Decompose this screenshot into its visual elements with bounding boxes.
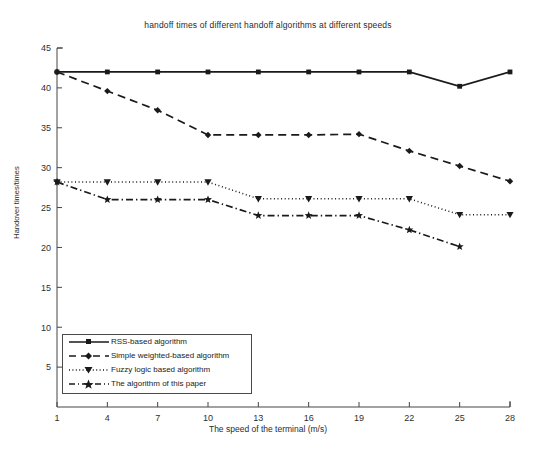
series-marker-3 (305, 211, 313, 219)
svg-text:16: 16 (304, 413, 314, 423)
svg-text:15: 15 (41, 283, 51, 293)
series-marker-0 (206, 70, 211, 75)
legend-item-1: Simple weighted-based algorithm (67, 349, 251, 363)
series-marker-3 (456, 242, 464, 250)
series-marker-1 (255, 132, 261, 138)
svg-text:13: 13 (253, 413, 263, 423)
svg-text:1: 1 (54, 413, 59, 423)
svg-text:35: 35 (41, 123, 51, 133)
legend-label-0: RSS-based algorithm (111, 335, 187, 349)
svg-text:10: 10 (203, 413, 213, 423)
legend-swatch-dashed (67, 349, 111, 363)
series-line-0 (57, 72, 510, 86)
series-marker-1 (507, 178, 513, 184)
legend-label-2: Fuzzy logic based algorithm (111, 363, 210, 377)
legend: RSS-based algorithm Simple weighted-base… (62, 334, 252, 394)
legend-item-0: RSS-based algorithm (67, 335, 251, 349)
series-marker-1 (154, 107, 160, 113)
svg-text:25: 25 (41, 203, 51, 213)
legend-swatch-solid (67, 335, 111, 349)
series-marker-0 (155, 70, 160, 75)
series-marker-1 (305, 132, 311, 138)
series-marker-2 (104, 179, 111, 185)
legend-swatch-dashdot (67, 377, 111, 391)
series-marker-3 (405, 226, 413, 234)
legend-label-3: The algorithm of this paper (111, 377, 206, 391)
series-marker-0 (407, 70, 412, 75)
svg-text:45: 45 (41, 43, 51, 53)
series-line-2 (57, 182, 510, 215)
series-marker-2 (506, 212, 513, 218)
svg-text:20: 20 (41, 243, 51, 253)
series-marker-1 (104, 88, 110, 94)
legend-item-2: Fuzzy logic based algorithm (67, 363, 251, 377)
svg-text:7: 7 (155, 413, 160, 423)
series-marker-1 (205, 132, 211, 138)
chart-figure: handoff times of different handoff algor… (0, 0, 536, 456)
svg-text:40: 40 (41, 83, 51, 93)
series-marker-0 (508, 70, 513, 75)
series-marker-2 (355, 196, 362, 202)
svg-text:4: 4 (105, 413, 110, 423)
x-axis-label: The speed of the terminal (m/s) (0, 424, 536, 434)
svg-text:30: 30 (41, 163, 51, 173)
series-marker-0 (357, 70, 362, 75)
series-marker-0 (457, 84, 462, 89)
data-series (53, 69, 514, 250)
series-marker-1 (456, 163, 462, 169)
x-axis-ticks: 14710131619222528 (54, 402, 515, 423)
y-axis-label: Handover times/times (12, 143, 21, 263)
series-marker-2 (255, 196, 262, 202)
svg-text:5: 5 (46, 362, 51, 372)
series-marker-3 (254, 211, 262, 219)
series-line-1 (57, 72, 510, 181)
series-marker-1 (356, 131, 362, 137)
svg-text:28: 28 (505, 413, 515, 423)
series-marker-3 (355, 211, 363, 219)
series-marker-0 (105, 70, 110, 75)
legend-label-1: Simple weighted-based algorithm (111, 349, 229, 363)
series-marker-2 (305, 196, 312, 202)
svg-text:19: 19 (354, 413, 364, 423)
y-axis-ticks: 51015202530354045 (41, 43, 62, 372)
series-marker-3 (204, 195, 212, 203)
series-marker-2 (406, 196, 413, 202)
legend-swatch-dotted (67, 363, 111, 377)
svg-text:25: 25 (455, 413, 465, 423)
svg-text:22: 22 (404, 413, 414, 423)
legend-item-3: The algorithm of this paper (67, 377, 251, 391)
series-marker-2 (456, 212, 463, 218)
series-marker-1 (406, 148, 412, 154)
series-marker-3 (103, 195, 111, 203)
series-marker-0 (306, 70, 311, 75)
series-marker-0 (256, 70, 261, 75)
series-marker-3 (154, 195, 162, 203)
svg-text:10: 10 (41, 323, 51, 333)
